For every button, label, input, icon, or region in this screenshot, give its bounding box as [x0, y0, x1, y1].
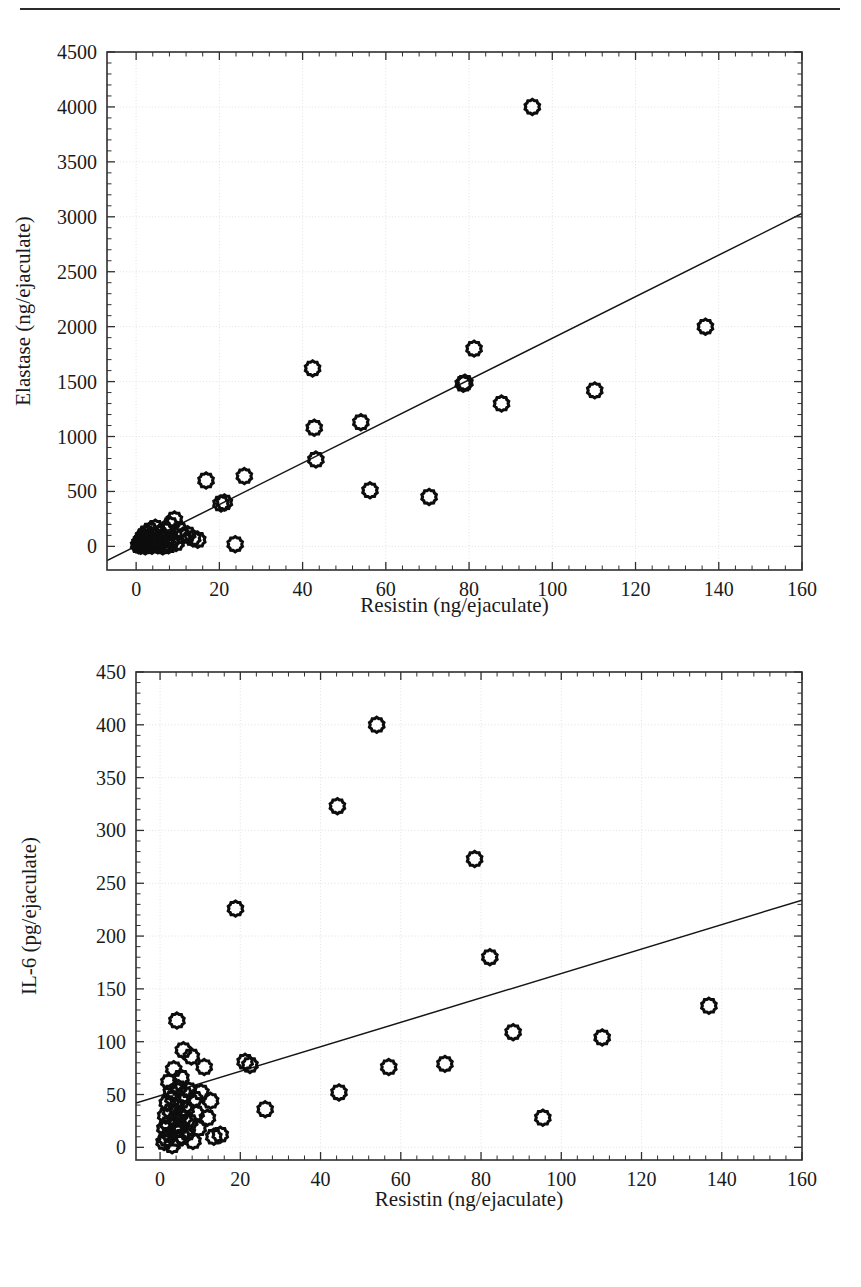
- x-tick-label: 0: [155, 1168, 165, 1190]
- y-tick-label: 450: [96, 661, 126, 683]
- data-point-marker: [467, 851, 481, 866]
- y-tick-label: 0: [87, 535, 97, 557]
- y-tick-label: 3500: [57, 151, 97, 173]
- x-tick-label: 20: [209, 578, 229, 600]
- axis-ticks: [107, 52, 802, 570]
- y-tick-label: 1500: [57, 371, 97, 393]
- data-point-marker: [237, 468, 251, 483]
- x-tick-label: 160: [787, 578, 817, 600]
- x-tick-label: 160: [787, 1168, 817, 1190]
- data-point-marker: [197, 1059, 211, 1074]
- y-axis-title: Elastase (ng/ejaculate): [11, 216, 35, 405]
- page-top-rule: [20, 8, 840, 10]
- y-tick-label: 2500: [57, 261, 97, 283]
- data-point-marker: [309, 452, 323, 467]
- data-point-marker: [170, 1013, 184, 1028]
- x-tick-label: 0: [131, 578, 141, 600]
- y-tick-label: 250: [96, 872, 126, 894]
- figure-page: 0204060801001201401600500100015002000250…: [0, 0, 861, 1287]
- y-tick-label: 0: [116, 1136, 126, 1158]
- data-point-marker: [258, 1102, 272, 1117]
- grid-lines: [107, 52, 802, 570]
- data-point-marker: [595, 1030, 609, 1045]
- plot-frame: [107, 52, 802, 570]
- data-point-marker: [588, 383, 602, 398]
- y-tick-label: 100: [96, 1031, 126, 1053]
- y-tick-label: 400: [96, 714, 126, 736]
- data-point-marker: [506, 1025, 520, 1040]
- regression-trend-line: [107, 213, 802, 560]
- x-tick-label: 40: [293, 578, 313, 600]
- x-axis-title: Resistin (ng/ejaculate): [375, 1187, 563, 1211]
- data-point-marker: [483, 950, 497, 965]
- data-point-marker: [203, 1093, 217, 1108]
- data-point-marker: [702, 998, 716, 1013]
- data-point-marker: [305, 361, 319, 376]
- data-point-marker: [332, 1085, 346, 1100]
- x-tick-label: 120: [621, 578, 651, 600]
- y-tick-label: 3000: [57, 206, 97, 228]
- y-tick-label: 350: [96, 767, 126, 789]
- figure-il6-vs-resistin: 0204060801001201401600501001502002503003…: [0, 650, 861, 1280]
- data-point-marker: [363, 483, 377, 498]
- x-axis-title: Resistin (ng/ejaculate): [360, 593, 548, 617]
- y-tick-label: 300: [96, 819, 126, 841]
- data-point-marker: [200, 1110, 214, 1125]
- data-point-marker: [199, 473, 213, 488]
- x-tick-label: 20: [230, 1168, 250, 1190]
- y-tick-label: 500: [67, 480, 97, 502]
- y-tick-label: 200: [96, 925, 126, 947]
- y-tick-label: 4000: [57, 96, 97, 118]
- y-axis-title: IL-6 (pg/ejaculate): [17, 837, 41, 995]
- data-point-marker: [228, 901, 242, 916]
- scatter-plot-il6: 0204060801001201401600501001502002503003…: [0, 650, 861, 1280]
- x-tick-label: 40: [311, 1168, 331, 1190]
- data-point-marker: [536, 1110, 550, 1125]
- data-point-marker: [382, 1059, 396, 1074]
- x-tick-label: 140: [707, 1168, 737, 1190]
- data-point-marker: [354, 415, 368, 430]
- data-point-marker: [422, 489, 436, 504]
- y-tick-label: 150: [96, 978, 126, 1000]
- scatter-plot-elastase: 0204060801001201401600500100015002000250…: [0, 30, 861, 630]
- x-tick-label: 120: [627, 1168, 657, 1190]
- data-point-marker: [307, 420, 321, 435]
- data-point-marker: [525, 99, 539, 114]
- figure-elastase-vs-resistin: 0204060801001201401600500100015002000250…: [0, 30, 861, 630]
- y-tick-label: 2000: [57, 316, 97, 338]
- x-tick-label: 140: [704, 578, 734, 600]
- trend-line-group: [107, 213, 802, 560]
- data-point-marker: [228, 537, 242, 552]
- data-point-marker: [494, 396, 508, 411]
- y-tick-label: 50: [106, 1084, 126, 1106]
- data-point-marker: [467, 341, 481, 356]
- y-tick-label: 1000: [57, 426, 97, 448]
- data-point-marker: [438, 1056, 452, 1071]
- data-point-marker: [330, 799, 344, 814]
- y-tick-label: 4500: [57, 41, 97, 63]
- data-points: [157, 717, 716, 1153]
